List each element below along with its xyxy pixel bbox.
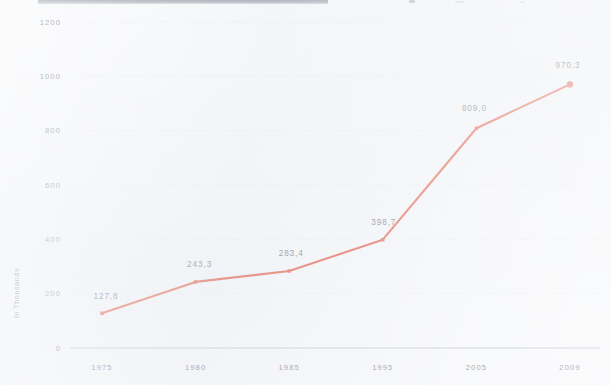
clipped-header-mark-a [409,0,415,3]
data-point-value-label: 243,3 [187,260,212,269]
data-point-value-label: 809,0 [462,104,487,113]
y-axis-title: in Thousands [12,268,21,318]
x-axis-tick-labels: 197519801985199520052009 [91,363,580,372]
clipped-header-mark-c [520,1,525,3]
y-tick-label: 1200 [40,18,61,27]
gridlines-group [70,22,600,348]
x-tick-label: 2005 [466,363,487,372]
data-point-marker [100,312,103,315]
y-tick-label: 0 [56,344,61,353]
data-point-marker [288,269,291,272]
chart-canvas: 020040060080010001200 197519801985199520… [0,0,611,385]
clipped-header-bar [38,0,328,4]
series-value-labels-group: 127,8243,3283,4398,7809,0970,3 [94,61,581,301]
x-tick-label: 1980 [185,363,206,372]
y-axis-tick-labels: 020040060080010001200 [40,18,61,353]
data-point-marker [381,238,384,241]
data-point-marker [475,127,478,130]
y-tick-label: 400 [45,235,61,244]
y-tick-label: 1000 [40,72,61,81]
x-tick-label: 1995 [372,363,393,372]
y-tick-label: 600 [45,181,61,190]
x-tick-label: 1975 [91,363,112,372]
series-line-path [102,84,570,313]
y-tick-label: 200 [45,289,61,298]
x-tick-label: 2009 [559,363,580,372]
line-chart: 020040060080010001200 197519801985199520… [0,0,611,385]
data-point-value-label: 398,7 [371,218,396,227]
data-point-value-label: 283,4 [279,249,304,258]
data-point-marker [194,280,197,283]
y-tick-label: 800 [45,126,61,135]
data-point-value-label: 970,3 [556,61,581,70]
clipped-header-mark-b [455,1,464,3]
data-point-value-label: 127,8 [94,292,119,301]
data-point-marker [567,81,573,87]
x-tick-label: 1985 [279,363,300,372]
